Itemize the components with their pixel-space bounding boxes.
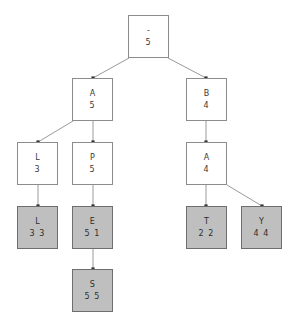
- tree-node-a4[interactable]: A4: [186, 142, 227, 185]
- tree-edge: [91, 58, 129, 80]
- node-value: 4: [203, 102, 209, 110]
- node-label: -: [147, 27, 150, 35]
- tree-node-l3[interactable]: L3: [17, 142, 58, 185]
- node-value: 5: [89, 166, 95, 174]
- node-label: L: [35, 154, 40, 162]
- node-label: A: [204, 154, 210, 162]
- node-value: 4 4: [253, 230, 269, 238]
- tree-edge: [91, 249, 94, 271]
- tree-edge: [204, 121, 207, 144]
- tree-edge: [168, 58, 208, 80]
- node-value: 2 2: [198, 230, 214, 238]
- node-label: P: [90, 154, 95, 162]
- tree-edge: [91, 185, 94, 208]
- tree-diagram: -5A5B4L3P5A4L3 3E5 1T2 2Y4 4S5 5: [0, 0, 298, 330]
- node-label: T: [204, 218, 209, 226]
- node-value: 3: [34, 166, 40, 174]
- edge-line: [227, 185, 262, 206]
- node-label: Y: [259, 218, 264, 226]
- node-value: 5: [145, 39, 151, 47]
- node-value: 5 5: [84, 293, 100, 301]
- tree-node-a5[interactable]: A5: [72, 78, 113, 121]
- node-label: L: [35, 218, 40, 226]
- node-label: B: [204, 90, 210, 98]
- node-value: 5: [89, 102, 95, 110]
- tree-edge: [91, 121, 94, 144]
- tree-edge: [36, 121, 73, 144]
- tree-node-s55[interactable]: S5 5: [72, 269, 113, 312]
- tree-node-l33[interactable]: L3 3: [17, 206, 58, 249]
- edge-line: [168, 58, 206, 78]
- node-label: A: [90, 90, 96, 98]
- node-value: 4: [203, 166, 209, 174]
- node-value: 3 3: [29, 230, 45, 238]
- tree-edge: [227, 185, 264, 208]
- tree-node-e51[interactable]: E5 1: [72, 206, 113, 249]
- node-value: 5 1: [84, 230, 100, 238]
- tree-node-t22[interactable]: T2 2: [186, 206, 227, 249]
- tree-node-y44[interactable]: Y4 4: [241, 206, 282, 249]
- tree-node-root[interactable]: -5: [128, 15, 169, 58]
- node-label: S: [90, 281, 95, 289]
- tree-node-b4[interactable]: B4: [186, 78, 227, 121]
- node-label: E: [90, 218, 95, 226]
- edge-line: [93, 58, 129, 78]
- tree-edge: [36, 185, 39, 208]
- tree-node-p5[interactable]: P5: [72, 142, 113, 185]
- edge-line: [38, 121, 73, 142]
- tree-edge: [204, 185, 207, 208]
